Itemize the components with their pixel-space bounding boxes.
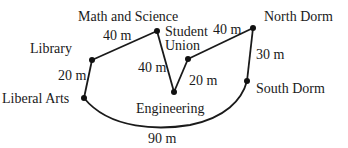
label-north-dorm: North Dorm — [264, 9, 333, 24]
edge-label-north-dorm-south-dorm: 30 m — [256, 47, 285, 62]
node-south-dorm — [244, 78, 250, 84]
label-south-dorm: South Dorm — [256, 81, 325, 96]
label-liberal-arts: Liberal Arts — [2, 91, 69, 106]
label-library: Library — [30, 41, 72, 56]
edge-label-library-liberal-arts: 20 m — [58, 68, 87, 83]
node-student-union — [185, 56, 191, 62]
node-north-dorm — [250, 25, 256, 31]
edge-label-liberal-arts-south-dorm: 90 m — [148, 131, 177, 146]
label-math-and-science: Math and Science — [78, 9, 178, 24]
edge-engineering-student-union — [174, 59, 188, 92]
edge-north-dorm-south-dorm — [247, 28, 253, 81]
node-library — [89, 57, 95, 63]
label-student-union-line1: Student — [165, 24, 208, 39]
edge-label-engineering-student-union: 20 m — [189, 73, 218, 88]
node-engineering — [171, 89, 177, 95]
label-student-union-line2: Union — [165, 38, 200, 53]
campus-graph-diagram: Math and Science Library Liberal Arts En… — [0, 0, 348, 148]
node-math-and-science — [154, 28, 160, 34]
edge-label-library-math: 40 m — [103, 28, 132, 43]
label-engineering: Engineering — [136, 101, 204, 116]
edge-label-math-engineering: 40 m — [138, 60, 167, 75]
node-liberal-arts — [81, 95, 87, 101]
edge-label-student-union-north-dorm: 40 m — [213, 22, 242, 37]
